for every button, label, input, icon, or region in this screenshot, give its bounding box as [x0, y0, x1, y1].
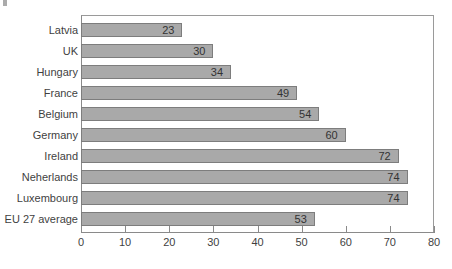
x-axis-tick-label: 10 — [105, 236, 145, 248]
bar-row: 74 — [81, 191, 434, 205]
x-axis-tick-label: 60 — [326, 236, 366, 248]
x-axis-tick-label: 70 — [370, 236, 410, 248]
bar-value-label: 74 — [81, 170, 400, 184]
category-label: France — [4, 86, 78, 100]
x-axis-line — [81, 232, 435, 233]
bar-value-label: 49 — [81, 86, 289, 100]
x-axis-tick-label: 20 — [149, 236, 189, 248]
x-axis-tick — [390, 226, 391, 232]
x-axis-tick — [302, 226, 303, 232]
scan-artifact — [3, 0, 7, 6]
bar-row: 72 — [81, 149, 434, 163]
x-axis-tick — [169, 226, 170, 232]
x-axis-tick — [434, 226, 435, 232]
bar-value-label: 23 — [81, 23, 174, 37]
bar-value-label: 60 — [81, 128, 338, 142]
bar-value-label: 30 — [81, 44, 205, 58]
bar-row: 54 — [81, 107, 434, 121]
category-label: UK — [4, 44, 78, 58]
bars-layer: 23303449546072747453 — [81, 15, 434, 232]
x-axis-tick-label: 30 — [193, 236, 233, 248]
x-axis-tick — [125, 226, 126, 232]
bar-value-label: 54 — [81, 107, 311, 121]
bar-value-label: 72 — [81, 149, 391, 163]
category-label: Ireland — [4, 149, 78, 163]
x-axis-tick-label: 80 — [414, 236, 452, 248]
bar-row: 49 — [81, 86, 434, 100]
x-axis-tick — [258, 226, 259, 232]
x-axis-tick-label: 0 — [61, 236, 101, 248]
bar-row: 60 — [81, 128, 434, 142]
bar-value-label: 53 — [81, 212, 307, 226]
category-label: EU 27 average — [4, 212, 78, 226]
x-axis-tick — [213, 226, 214, 232]
bar-row: 23 — [81, 23, 434, 37]
bar-row: 34 — [81, 65, 434, 79]
category-axis-labels: LatviaUKHungaryFranceBelgiumGermanyIrela… — [0, 15, 78, 232]
bar-value-label: 34 — [81, 65, 223, 79]
category-label: Germany — [4, 128, 78, 142]
category-label: Luxembourg — [4, 191, 78, 205]
x-axis-tick — [81, 226, 82, 232]
category-label: Belgium — [4, 107, 78, 121]
category-label: Hungary — [4, 65, 78, 79]
category-label: Latvia — [4, 23, 78, 37]
bar-row: 74 — [81, 170, 434, 184]
bar-chart: LatviaUKHungaryFranceBelgiumGermanyIrela… — [0, 0, 452, 269]
bar-row: 30 — [81, 44, 434, 58]
bar-value-label: 74 — [81, 191, 400, 205]
x-axis-tick — [346, 226, 347, 232]
x-axis-tick-label: 40 — [238, 236, 278, 248]
category-label: Neherlands — [4, 170, 78, 184]
bar-row: 53 — [81, 212, 434, 226]
x-axis-tick-label: 50 — [282, 236, 322, 248]
